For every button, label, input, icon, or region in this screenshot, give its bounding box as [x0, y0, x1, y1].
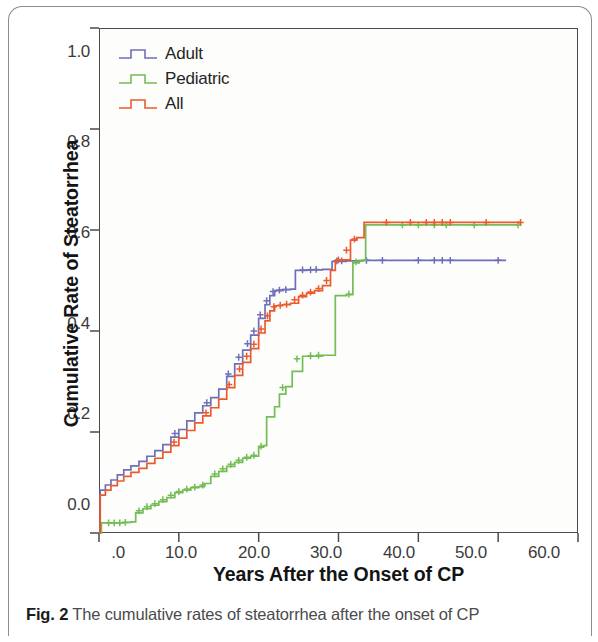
censor-mark [251, 341, 257, 348]
censor-mark [122, 519, 128, 526]
censor-mark [236, 365, 242, 372]
km-curve-adult [99, 260, 506, 533]
censor-mark [307, 289, 313, 296]
step-line-icon-pediatric [118, 69, 158, 89]
censor-mark [171, 439, 177, 446]
caption-label: Fig. 2 [26, 605, 68, 623]
censor-mark [307, 267, 313, 274]
censor-mark [184, 486, 190, 493]
censor-mark [257, 311, 263, 318]
censor-mark [117, 520, 123, 527]
censor-mark [315, 352, 321, 359]
censor-mark [431, 257, 437, 264]
xtick-label-30: 30.0 [296, 543, 356, 563]
legend: Adult Pediatric All [118, 41, 229, 116]
censor-mark [323, 277, 329, 284]
km-figure: 1.0 0.8 0.6 0.4 0.2 0.0 .0 10.0 20.0 30.… [0, 0, 598, 600]
censor-mark [200, 482, 206, 489]
censor-mark [277, 302, 283, 309]
caption-text: The cumulative rates of steatorrhea afte… [68, 605, 479, 623]
censor-mark [307, 352, 313, 359]
censor-mark [271, 303, 277, 310]
censor-mark [283, 301, 289, 308]
censor-mark [263, 297, 269, 304]
y-axis-title: Cumulative Rate of Steatorrhea [60, 74, 83, 494]
xtick-label-10: 10.0 [151, 543, 211, 563]
censor-mark [439, 257, 445, 264]
xtick-label-50: 50.0 [441, 543, 501, 563]
figure-page: 1.0 0.8 0.6 0.4 0.2 0.0 .0 10.0 20.0 30.… [0, 0, 598, 642]
censor-mark [291, 296, 297, 303]
censor-mark [283, 286, 289, 293]
km-curve-pediatric [99, 225, 518, 533]
legend-item-adult: Adult [118, 41, 229, 66]
censor-mark [353, 258, 359, 265]
ytick-label-0.0: 0.0 [44, 495, 90, 515]
censor-mark [236, 354, 242, 361]
censor-mark [346, 291, 352, 298]
step-line-icon-adult [118, 44, 158, 64]
censor-mark [279, 384, 285, 391]
censor-mark [276, 287, 282, 294]
legend-item-all: All [118, 91, 229, 116]
legend-label-adult: Adult [165, 44, 203, 64]
legend-item-pediatric: Pediatric [118, 66, 229, 91]
xtick-label-20: 20.0 [224, 543, 284, 563]
censor-mark [111, 520, 117, 527]
censor-mark [343, 247, 349, 254]
censor-mark [251, 328, 257, 335]
censor-mark [243, 454, 249, 461]
figure-caption: Fig. 2 The cumulative rates of steatorrh… [26, 605, 582, 624]
censor-mark [313, 266, 319, 273]
legend-label-all: All [165, 94, 183, 114]
censor-mark [192, 484, 198, 491]
legend-label-pediatric: Pediatric [165, 69, 229, 89]
censor-mark [415, 257, 421, 264]
step-line-icon-all [118, 94, 158, 114]
censor-mark [495, 257, 501, 264]
ytick-label-1.0: 1.0 [44, 42, 90, 62]
xtick-label-0: .0 [88, 543, 148, 563]
censor-mark [152, 500, 158, 507]
xtick-label-60: 60.0 [514, 543, 574, 563]
xtick-label-40: 40.0 [369, 543, 429, 563]
censor-mark [351, 236, 357, 243]
censor-mark [243, 353, 249, 360]
censor-mark [299, 292, 305, 299]
censor-mark [299, 267, 305, 274]
censor-mark [447, 257, 453, 264]
censor-mark [294, 355, 300, 362]
censor-mark [176, 488, 182, 495]
censor-mark [172, 430, 178, 437]
km-curve-all [99, 222, 521, 533]
x-axis-title: Years After the Onset of CP [99, 563, 578, 586]
censor-mark [379, 257, 385, 264]
censor-mark [244, 340, 250, 347]
series-all [99, 219, 524, 533]
censor-mark [251, 452, 257, 459]
censor-mark [105, 520, 111, 527]
